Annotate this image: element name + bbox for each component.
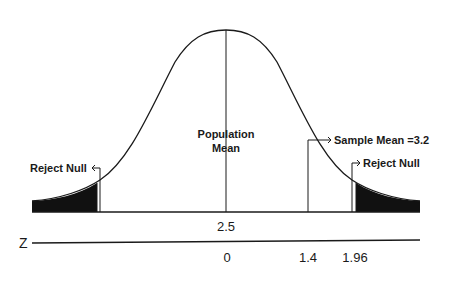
reject-null-right-label: Reject Null [363, 157, 420, 169]
normal-distribution-diagram: Population Mean Sample Mean =3.2 Reject … [0, 0, 454, 291]
z-tick-1: 1.4 [299, 250, 317, 265]
value-above-axis: 2.5 [217, 219, 235, 234]
reject-null-left-label: Reject Null [30, 162, 87, 174]
z-axis-line [32, 240, 420, 243]
population-mean-label-line1: Population [198, 128, 255, 140]
z-tick-2: 1.96 [342, 250, 367, 265]
population-mean-label-line2: Mean [212, 142, 240, 154]
right-reject-arrow-icon [352, 160, 360, 180]
z-tick-0: 0 [223, 250, 230, 265]
left-reject-arrow-icon [92, 165, 100, 180]
sample-mean-label: Sample Mean =3.2 [334, 134, 429, 146]
z-axis-label: Z [19, 235, 28, 251]
